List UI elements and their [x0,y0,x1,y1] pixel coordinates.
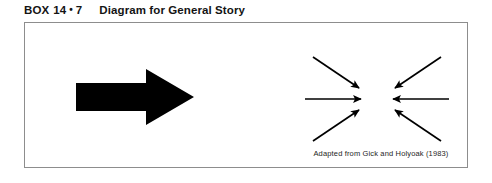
figure-label-number: 14 [53,4,66,16]
figure-label-separator: • [69,4,73,15]
figure-label-subnumber: 7 [76,4,83,16]
figure-source-caption: Adapted from Gick and Holyoak (1983) [301,149,461,158]
large-right-arrow [76,69,194,125]
arrow-from-upper-left [313,57,359,88]
figure-frame: Adapted from Gick and Holyoak (1983) [24,22,468,168]
arrow-from-lower-right [395,110,441,141]
converging-arrows [301,51,453,147]
figure-title: BOX 14 • 7 Diagram for General Story [24,2,245,18]
figure-title-text: Diagram for General Story [99,4,245,16]
figure-label-word: BOX [24,4,49,16]
arrow-from-upper-right [395,57,441,88]
arrow-from-lower-left [313,110,359,141]
